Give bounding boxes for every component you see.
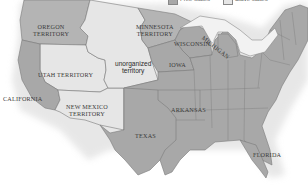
label-new-mexico-territory: NEW MEXICO TERRITORY — [66, 103, 108, 117]
label-texas: TEXAS — [135, 132, 156, 139]
label-minnesota-line1: MINNESOTA — [136, 23, 174, 30]
label-florida: FLORIDA — [253, 151, 281, 158]
legend-swatch-slave — [223, 0, 233, 5]
label-california: CALIFORNIA — [3, 95, 42, 102]
label-oregon-line2: TERRITORY — [33, 30, 69, 37]
label-minnesota-line2: TERRITORY — [136, 30, 174, 37]
legend-label-free: Free states — [180, 0, 210, 2]
legend-swatch-free — [168, 0, 178, 5]
label-unorganized-line1: unorganized — [115, 60, 151, 67]
label-arkansas: ARKANSAS — [171, 106, 206, 113]
label-oregon-line1: OREGON — [33, 23, 69, 30]
label-minnesota-territory: MINNESOTA TERRITORY — [136, 23, 174, 37]
label-oregon-territory: OREGON TERRITORY — [33, 23, 69, 37]
legend: Free states Slave states — [168, 0, 288, 6]
label-unorganized-line2: territory — [115, 67, 151, 74]
label-unorganized-territory: unorganized territory — [115, 60, 151, 74]
legend-label-slave: Slave states — [235, 0, 268, 2]
label-iowa: IOWA — [169, 61, 186, 68]
label-utah-territory: UTAH TERRITORY — [38, 71, 93, 78]
label-new-mexico-line1: NEW MEXICO — [66, 103, 108, 110]
label-new-mexico-line2: TERRITORY — [66, 110, 108, 117]
